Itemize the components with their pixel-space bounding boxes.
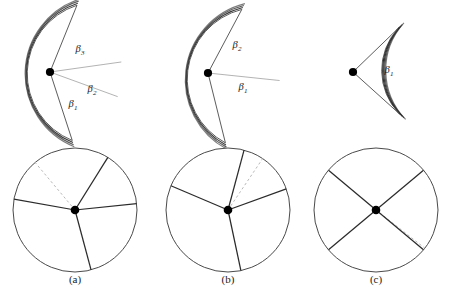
folded-fan-figure: β3β2β1β2β1β1 (a)(b)(c)	[0, 0, 452, 296]
fan-apex-vertex	[204, 69, 212, 77]
panel-c: β1	[314, 23, 438, 272]
circle-c	[314, 148, 438, 272]
captions-layer: (a)(b)(c)	[69, 273, 383, 286]
fan-b: β2β1	[185, 4, 279, 150]
panel-caption-a: (a)	[69, 273, 82, 286]
figure-root: β3β2β1β2β1β1 (a)(b)(c)	[0, 0, 452, 296]
fan-face	[187, 9, 242, 142]
panel-caption-c: (c)	[370, 273, 383, 286]
fan-crease-line	[50, 72, 118, 97]
fan-sector-label: β1	[237, 81, 247, 95]
circle-a	[13, 148, 137, 272]
fan-a: β3β2β1	[25, 0, 121, 147]
panel-caption-b: (b)	[222, 273, 235, 286]
circle-b	[166, 148, 290, 272]
fan-c: β1	[349, 23, 406, 120]
panels-layer: β3β2β1β2β1β1	[13, 0, 438, 272]
fan-apex-vertex	[349, 68, 357, 76]
fan-crease-line	[208, 73, 280, 81]
fan-sector-label: β2	[231, 39, 242, 53]
circle-center-vertex	[71, 206, 80, 215]
fan-apex-vertex	[46, 68, 54, 76]
circle-center-vertex	[224, 206, 233, 215]
fan-sector-label: β3	[74, 43, 85, 57]
fan-sector-label: β1	[67, 98, 77, 112]
fan-crease-line	[50, 62, 121, 72]
circle-center-vertex	[372, 206, 381, 215]
panel-b: β2β1	[166, 4, 290, 272]
fan-sector-label: β2	[86, 83, 97, 97]
panel-a: β3β2β1	[13, 0, 137, 272]
